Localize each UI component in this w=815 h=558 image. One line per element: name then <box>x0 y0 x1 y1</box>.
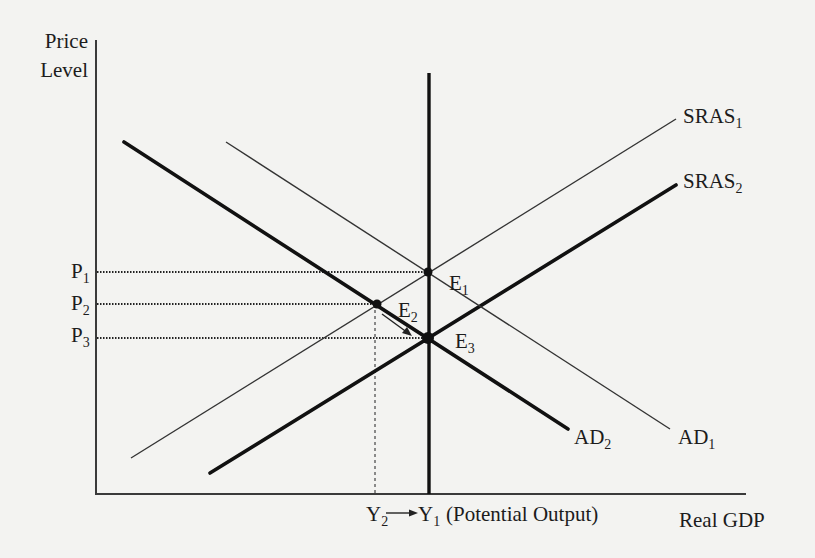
e2-point <box>373 300 382 309</box>
sras2-label: SRAS2 <box>683 169 743 196</box>
e1-label: E1 <box>449 271 469 298</box>
e3-point <box>422 332 434 344</box>
y1-label: Y1 <box>418 502 440 529</box>
ad1-curve <box>226 142 670 429</box>
ad-as-diagram: Price Level Real GDP P1 P2 P3 SRAS1 SRAS… <box>0 0 815 558</box>
potential-output-label: (Potential Output) <box>446 502 598 526</box>
x-axis-label: Real GDP <box>679 508 765 532</box>
y2-label: Y2 <box>366 502 388 529</box>
p2-label: P2 <box>71 291 90 318</box>
ad2-curve <box>124 142 568 429</box>
sras1-curve <box>131 119 676 458</box>
p3-label: P3 <box>71 323 90 350</box>
e1-point <box>424 268 433 277</box>
e3-label: E3 <box>455 329 475 356</box>
sras2-curve <box>210 185 676 473</box>
p1-label: P1 <box>71 259 90 286</box>
ad2-label: AD2 <box>574 425 611 452</box>
sras1-label: SRAS1 <box>683 104 743 131</box>
y-axis-label-line1: Price <box>45 29 88 53</box>
y-axis-label-line2: Level <box>40 58 88 82</box>
e2-label: E2 <box>398 298 418 325</box>
ad1-label: AD1 <box>678 425 715 452</box>
y2-to-y1-arrowhead <box>409 510 418 517</box>
